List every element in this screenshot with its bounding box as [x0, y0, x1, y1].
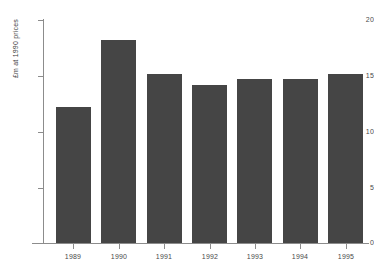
x-tick-mark-1992	[210, 244, 211, 249]
bar-1989[interactable]	[56, 107, 91, 243]
x-tick-label-1995: 1995	[326, 253, 366, 260]
y-axis-title: £m at 1990 prices	[12, 19, 19, 78]
bar-1995[interactable]	[328, 74, 363, 243]
bar-1994[interactable]	[283, 79, 318, 243]
x-tick-mark-1994	[300, 244, 301, 249]
x-tick-label-1992: 1992	[190, 253, 230, 260]
x-tick-label-1993: 1993	[235, 253, 275, 260]
bar-chart: £m at 1990 prices 20 15 10 5 0 1989 1990…	[0, 0, 374, 276]
plot-area	[44, 20, 364, 243]
x-tick-mark-1991	[164, 244, 165, 249]
bar-1990[interactable]	[101, 40, 136, 243]
x-tick-label-1991: 1991	[144, 253, 184, 260]
x-tick-mark-1990	[119, 244, 120, 249]
bar-1993[interactable]	[237, 79, 272, 243]
x-tick-mark-1995	[346, 244, 347, 249]
x-tick-mark-1993	[255, 244, 256, 249]
bar-1992[interactable]	[192, 85, 227, 243]
bar-1991[interactable]	[147, 74, 182, 243]
x-tick-mark-1989	[73, 244, 74, 249]
x-tick-label-1994: 1994	[280, 253, 320, 260]
x-axis-line	[32, 243, 369, 244]
x-tick-label-1990: 1990	[99, 253, 139, 260]
x-tick-label-1989: 1989	[53, 253, 93, 260]
